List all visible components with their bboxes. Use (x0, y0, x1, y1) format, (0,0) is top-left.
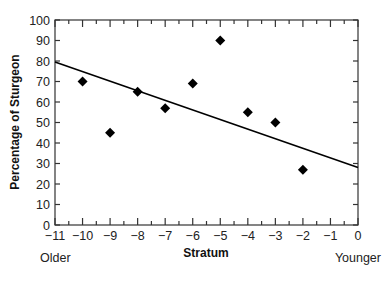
data-point (270, 118, 280, 128)
y-tick-label: 30 (36, 157, 50, 171)
data-point (133, 87, 143, 97)
data-point (188, 79, 198, 89)
y-tick-label: 40 (36, 137, 50, 151)
x-tick-label: −3 (268, 229, 282, 243)
x-tick-label: −9 (103, 229, 117, 243)
x-tick-label: −2 (296, 229, 310, 243)
ticks (55, 20, 358, 225)
data-points (78, 36, 308, 175)
y-tick-label: 100 (29, 14, 50, 28)
annotation-older: Older (40, 251, 71, 265)
data-point (105, 128, 115, 138)
y-tick-label: 80 (36, 55, 50, 69)
annotation-younger: Younger (335, 251, 381, 265)
y-tick-label: 60 (36, 96, 50, 110)
y-tick-label: 70 (36, 75, 50, 89)
x-tick-label: −8 (131, 229, 145, 243)
y-tick-label: 90 (36, 34, 50, 48)
plot-frame (55, 20, 358, 225)
y-tick-label: 20 (36, 178, 50, 192)
x-tick-label: −5 (213, 229, 227, 243)
tick-labels: −11−10−9−8−7−6−5−4−3−2−10010203040506070… (29, 14, 361, 244)
x-tick-label: −1 (323, 229, 337, 243)
x-tick-label: −7 (158, 229, 172, 243)
data-point (215, 36, 225, 46)
data-point (78, 77, 88, 87)
axes (55, 20, 358, 225)
data-point (160, 103, 170, 113)
y-tick-label: 0 (43, 219, 50, 233)
x-tick-label: −10 (72, 229, 93, 243)
y-tick-label: 10 (36, 198, 50, 212)
x-axis-title: Stratum (183, 246, 228, 260)
x-tick-label: −6 (186, 229, 200, 243)
trend-line-group (55, 62, 358, 168)
trend-line (55, 62, 358, 168)
scatter-chart: −11−10−9−8−7−6−5−4−3−2−10010203040506070… (0, 0, 390, 281)
y-axis-title: Percentage of Sturgeon (8, 54, 22, 189)
data-point (243, 107, 253, 117)
data-point (298, 165, 308, 175)
x-tick-label: −4 (241, 229, 255, 243)
x-tick-label: 0 (355, 229, 362, 243)
y-tick-label: 50 (36, 116, 50, 130)
